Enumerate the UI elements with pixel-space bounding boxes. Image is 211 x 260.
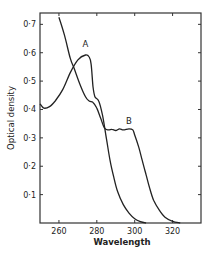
curve-label-b: B [126, 116, 132, 126]
x-axis-label: Wavelength [93, 237, 150, 247]
y-tick-label: 0·5 [23, 77, 36, 86]
x-tick-label: 320 [165, 227, 180, 236]
y-tick-label: 0·7 [23, 20, 36, 29]
y-tick-label: 0·6 [23, 49, 36, 58]
plot-frame [40, 13, 201, 223]
y-tick-label: 0·4 [23, 105, 36, 114]
curve-a [40, 55, 146, 223]
spectra-curves [40, 17, 180, 223]
x-axis-ticks: 260280300320 [51, 13, 180, 236]
curve-label-a: A [83, 39, 89, 49]
x-tick-label: 300 [127, 227, 142, 236]
y-tick-label: 0·2 [23, 162, 36, 171]
y-tick-label: 0·1 [23, 191, 36, 200]
y-axis-label: Optical density [6, 86, 16, 150]
x-tick-label: 280 [89, 227, 104, 236]
plot-border [40, 13, 201, 223]
optical-density-chart: 260280300320 0·10·20·30·40·50·60·7 AB Wa… [0, 0, 211, 260]
y-tick-label: 0·3 [23, 134, 36, 143]
curve-labels: AB [83, 39, 133, 126]
x-tick-label: 260 [51, 227, 66, 236]
curve-b [59, 17, 180, 223]
